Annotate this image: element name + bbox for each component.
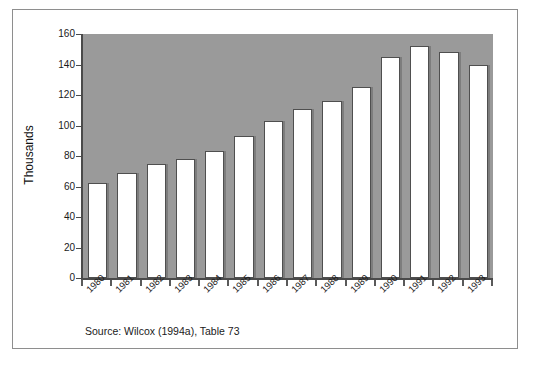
y-axis-tick-label: 0 xyxy=(49,273,75,283)
x-axis-tick-mark xyxy=(169,280,171,286)
x-axis-tick-mark xyxy=(140,280,142,286)
source-note: Source: Wilcox (1994a), Table 73 xyxy=(85,325,239,337)
y-axis-tick-label: 60 xyxy=(49,182,75,192)
bar xyxy=(176,159,195,278)
x-axis-tick-mark xyxy=(257,280,259,286)
y-axis-tick-label: 140 xyxy=(49,60,75,70)
y-axis-tick-label: 120 xyxy=(49,90,75,100)
y-axis-tick-label: 80 xyxy=(49,151,75,161)
y-axis-tick-mark xyxy=(76,65,81,66)
y-axis-tick-label: 160 xyxy=(49,29,75,39)
y-axis-label: Thousands xyxy=(22,95,36,215)
y-axis-tick-mark xyxy=(76,34,81,35)
y-axis-tick-mark xyxy=(76,156,81,157)
bar xyxy=(147,164,166,278)
figure-root: 020406080100120140160 Thousands Source: … xyxy=(0,0,538,366)
bar xyxy=(439,52,458,278)
x-axis-tick-mark xyxy=(374,280,376,286)
y-axis-tick-label: 20 xyxy=(49,243,75,253)
x-axis-tick-mark xyxy=(227,280,229,286)
plot-area xyxy=(81,34,493,280)
x-axis-tick-mark xyxy=(491,280,493,286)
y-axis-tick-mark xyxy=(76,187,81,188)
x-axis-tick-mark xyxy=(403,280,405,286)
x-axis-tick-mark xyxy=(345,280,347,286)
x-axis-tick-mark xyxy=(110,280,112,286)
y-axis-ticks: 020406080100120140160 xyxy=(49,34,75,278)
bar xyxy=(322,101,341,278)
y-axis-tick-mark xyxy=(76,248,81,249)
bar xyxy=(88,183,107,278)
y-axis-tick-mark xyxy=(76,126,81,127)
bar xyxy=(293,109,312,278)
x-axis-tick-mark xyxy=(81,280,83,286)
x-axis-tick-mark xyxy=(286,280,288,286)
bar xyxy=(410,46,429,278)
bar xyxy=(205,151,224,278)
bar xyxy=(117,173,136,278)
bar xyxy=(264,121,283,278)
bar xyxy=(469,65,488,279)
bar xyxy=(234,136,253,278)
y-axis-tick-label: 100 xyxy=(49,121,75,131)
x-axis-tick-mark xyxy=(432,280,434,286)
x-axis-tick-mark xyxy=(462,280,464,286)
y-axis-tick-label: 40 xyxy=(49,212,75,222)
bar xyxy=(352,87,371,278)
y-axis-tick-mark xyxy=(76,95,81,96)
y-axis-tick-mark xyxy=(76,217,81,218)
y-axis-tick-mark xyxy=(76,278,81,279)
figure-frame: 020406080100120140160 Thousands Source: … xyxy=(12,9,518,349)
x-axis-tick-mark xyxy=(198,280,200,286)
bar-series xyxy=(83,34,493,278)
bar xyxy=(381,57,400,278)
x-axis-tick-mark xyxy=(315,280,317,286)
